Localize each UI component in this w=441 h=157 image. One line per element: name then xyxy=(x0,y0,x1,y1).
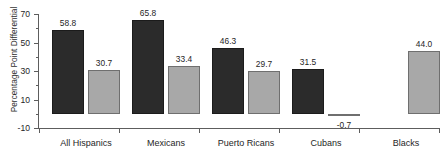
bar-blacks-light xyxy=(408,51,440,114)
y-tick-40 xyxy=(36,57,38,58)
y-tick-label-10: 10 xyxy=(20,95,30,105)
y-tick-0 xyxy=(36,114,38,115)
x-tick-start xyxy=(39,129,40,133)
x-tick-2 xyxy=(199,129,200,133)
bar-value-puerto-ricans-light: 29.7 xyxy=(256,59,272,69)
y-tick-50: 50 xyxy=(34,43,38,44)
bar-value-cubans-dark: 31.5 xyxy=(300,57,316,67)
bar-all-hispanics-dark xyxy=(52,30,84,114)
bar-puerto-ricans-light xyxy=(248,71,280,113)
plot-area: 70 50 30 10 -10 58.8 30.7 All xyxy=(38,0,441,157)
y-tick-20 xyxy=(36,85,38,86)
bar-value-blacks-light: 44.0 xyxy=(416,39,432,49)
y-tick-60 xyxy=(36,28,38,29)
y-tick-10: 10 xyxy=(34,100,38,101)
bar-all-hispanics-light xyxy=(88,70,120,114)
x-tick-end xyxy=(439,129,440,133)
x-axis-line xyxy=(38,128,440,129)
y-tick-30: 30 xyxy=(34,71,38,72)
bar-mexicans-light xyxy=(168,66,200,114)
bar-value-puerto-ricans-dark: 46.3 xyxy=(220,36,236,46)
y-tick-label-minus10: -10 xyxy=(18,123,30,133)
y-tick-label-30: 30 xyxy=(20,66,30,76)
x-category-label-blacks: Blacks xyxy=(393,138,420,148)
x-category-label-cubans: Cubans xyxy=(310,138,341,148)
bar-cubans-light xyxy=(328,114,360,117)
bar-puerto-ricans-dark xyxy=(212,48,244,114)
bar-value-mexicans-dark: 65.8 xyxy=(140,8,156,18)
y-axis-line xyxy=(38,14,39,128)
bar-mexicans-dark xyxy=(132,20,164,114)
bar-value-all-hispanics-dark: 58.8 xyxy=(60,18,76,28)
y-tick-label-70: 70 xyxy=(20,9,30,19)
x-category-label-mexicans: Mexicans xyxy=(147,138,185,148)
x-tick-1 xyxy=(119,129,120,133)
bar-value-mexicans-light: 33.4 xyxy=(176,54,192,64)
y-tick-label-50: 50 xyxy=(20,38,30,48)
bar-chart: Percentage Point Differential 70 50 30 1… xyxy=(0,0,441,157)
x-tick-3 xyxy=(279,129,280,133)
y-axis-title: Percentage Point Differential xyxy=(10,0,19,125)
y-tick-minus10: -10 xyxy=(34,128,38,129)
y-tick-70: 70 xyxy=(34,14,38,15)
x-category-label-all-hispanics: All Hispanics xyxy=(60,138,112,148)
x-tick-4 xyxy=(359,129,360,133)
bar-value-all-hispanics-light: 30.7 xyxy=(96,58,112,68)
x-category-label-puerto-ricans: Puerto Ricans xyxy=(218,138,275,148)
bar-cubans-dark xyxy=(292,69,324,114)
bar-value-cubans-light: -0.7 xyxy=(337,120,351,130)
